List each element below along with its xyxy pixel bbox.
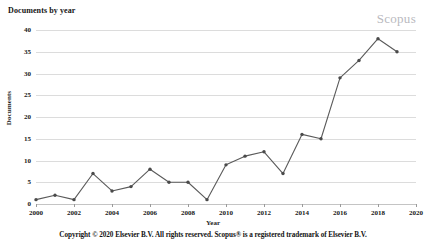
data-point-marker bbox=[319, 137, 322, 140]
x-tick-mark bbox=[378, 204, 379, 207]
data-point-marker bbox=[186, 181, 189, 184]
x-tick-mark bbox=[416, 204, 417, 207]
x-tick-mark bbox=[150, 204, 151, 207]
x-tick-label: 2012 bbox=[257, 209, 271, 217]
y-tick-label: 25 bbox=[24, 91, 31, 99]
x-tick-label: 2016 bbox=[333, 209, 347, 217]
x-tick-mark bbox=[188, 204, 189, 207]
x-tick-label: 2002 bbox=[67, 209, 81, 217]
data-point-marker bbox=[167, 181, 170, 184]
data-point-marker bbox=[338, 76, 341, 79]
y-tick-label: 20 bbox=[24, 113, 31, 121]
data-point-marker bbox=[357, 59, 360, 62]
x-tick-label: 2008 bbox=[181, 209, 195, 217]
y-tick-label: 5 bbox=[28, 178, 32, 186]
data-point-marker bbox=[110, 189, 113, 192]
x-tick-label: 2014 bbox=[295, 209, 309, 217]
y-tick-label: 35 bbox=[24, 48, 31, 56]
data-point-marker bbox=[91, 172, 94, 175]
y-tick-label: 40 bbox=[24, 26, 31, 34]
data-point-marker bbox=[34, 198, 37, 201]
x-tick-mark bbox=[36, 204, 37, 207]
data-point-marker bbox=[72, 198, 75, 201]
x-axis-title: Year bbox=[0, 219, 426, 227]
data-point-marker bbox=[224, 163, 227, 166]
x-tick-label: 2006 bbox=[143, 209, 157, 217]
x-tick-label: 2018 bbox=[371, 209, 385, 217]
y-tick-label: 30 bbox=[24, 70, 31, 78]
page-title: Documents by year bbox=[8, 6, 75, 15]
x-tick-mark bbox=[264, 204, 265, 207]
x-tick-mark bbox=[302, 204, 303, 207]
data-point-marker bbox=[262, 150, 265, 153]
data-point-marker bbox=[53, 194, 56, 197]
x-tick-label: 2010 bbox=[219, 209, 233, 217]
data-point-marker bbox=[300, 133, 303, 136]
y-axis-title: Documents bbox=[5, 78, 13, 138]
copyright-notice: Copyright © 2020 Elsevier B.V. All right… bbox=[0, 231, 426, 239]
x-tick-label: 2004 bbox=[105, 209, 119, 217]
documents-line-series bbox=[36, 30, 416, 204]
x-tick-mark bbox=[340, 204, 341, 207]
data-point-marker bbox=[376, 37, 379, 40]
x-tick-mark bbox=[226, 204, 227, 207]
data-point-marker bbox=[148, 168, 151, 171]
plot-area: 0510152025303540 20002002200420062008201… bbox=[36, 30, 416, 204]
series-line bbox=[36, 39, 397, 200]
data-point-marker bbox=[129, 185, 132, 188]
scopus-documents-by-year-chart: Documents by year Scopus Documents 05101… bbox=[0, 0, 426, 243]
data-point-marker bbox=[395, 50, 398, 53]
y-tick-label: 10 bbox=[24, 157, 31, 165]
scopus-watermark: Scopus bbox=[377, 11, 416, 27]
y-tick-label: 15 bbox=[24, 135, 31, 143]
data-point-marker bbox=[205, 198, 208, 201]
x-tick-mark bbox=[74, 204, 75, 207]
x-tick-label: 2000 bbox=[29, 209, 43, 217]
y-tick-label: 0 bbox=[28, 200, 32, 208]
data-point-marker bbox=[281, 172, 284, 175]
x-tick-label: 2020 bbox=[409, 209, 423, 217]
data-point-marker bbox=[243, 154, 246, 157]
x-tick-mark bbox=[112, 204, 113, 207]
